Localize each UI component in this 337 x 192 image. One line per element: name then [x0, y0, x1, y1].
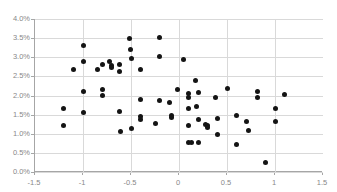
- data-point: [205, 125, 210, 130]
- data-point: [273, 119, 278, 124]
- scatter-chart: 0.0%0.5%1.0%1.5%2.0%2.5%3.0%3.5%4.0% -1.…: [0, 0, 337, 192]
- data-point: [61, 123, 66, 128]
- data-point: [117, 69, 122, 74]
- data-point: [118, 129, 123, 134]
- data-point: [193, 78, 198, 83]
- y-tick-label: 3.0%: [0, 53, 30, 61]
- data-point: [128, 47, 133, 52]
- data-point: [234, 113, 239, 118]
- data-point: [138, 97, 143, 102]
- data-point: [196, 140, 201, 145]
- data-point: [81, 110, 86, 115]
- data-point: [234, 142, 239, 147]
- data-point: [167, 100, 172, 105]
- x-tick-label: 1: [257, 178, 291, 187]
- data-point: [100, 93, 105, 98]
- x-tick-label: 1.5: [305, 178, 337, 187]
- y-tick-label: 1.5%: [0, 111, 30, 119]
- data-point: [153, 121, 158, 126]
- gridline-vertical: [275, 19, 276, 172]
- y-tick-label: 1.0%: [0, 130, 30, 138]
- data-point: [196, 90, 201, 95]
- y-tick-label: 0.0%: [0, 168, 30, 176]
- x-tick-label: -1: [65, 178, 99, 187]
- data-point: [215, 132, 220, 137]
- data-point: [138, 67, 143, 72]
- data-point: [186, 95, 191, 100]
- data-point: [100, 87, 105, 92]
- data-point: [263, 160, 268, 165]
- data-point: [81, 59, 86, 64]
- gridline-vertical: [227, 19, 228, 172]
- data-point: [127, 36, 132, 41]
- data-point: [129, 56, 134, 61]
- data-point: [282, 92, 287, 97]
- gridline-vertical: [179, 19, 180, 172]
- data-point: [81, 43, 86, 48]
- chart-title: [8, 0, 328, 3]
- gridline-vertical: [83, 19, 84, 172]
- data-point: [181, 57, 186, 62]
- gridline-horizontal: [35, 172, 323, 173]
- plot-area: [34, 19, 322, 172]
- data-point: [95, 67, 100, 72]
- data-point: [255, 95, 260, 100]
- data-point: [273, 106, 278, 111]
- x-tick-label: -1.5: [17, 178, 51, 187]
- data-point: [189, 140, 194, 145]
- data-point: [117, 62, 122, 67]
- data-point: [246, 128, 251, 133]
- data-point: [157, 98, 162, 103]
- data-point: [157, 35, 162, 40]
- data-point: [169, 115, 174, 120]
- data-point: [100, 62, 105, 67]
- data-point: [255, 89, 260, 94]
- data-point: [194, 104, 199, 109]
- y-tick-label: 3.5%: [0, 34, 30, 42]
- data-point: [225, 86, 230, 91]
- data-point: [109, 65, 114, 70]
- data-point: [213, 95, 218, 100]
- data-point: [138, 117, 143, 122]
- data-point: [129, 126, 134, 131]
- gridline-vertical: [131, 19, 132, 172]
- x-tick-label: -0.5: [113, 178, 147, 187]
- y-tick-label: 0.5%: [0, 149, 30, 157]
- y-tick-label: 2.0%: [0, 92, 30, 100]
- data-point: [175, 87, 180, 92]
- data-point: [244, 119, 249, 124]
- data-point: [71, 67, 76, 72]
- data-point: [186, 106, 191, 111]
- x-tick-label: 0: [161, 178, 195, 187]
- data-point: [61, 106, 66, 111]
- data-point: [215, 116, 220, 121]
- y-tick-label: 2.5%: [0, 72, 30, 80]
- data-point: [196, 117, 201, 122]
- x-tick-label: 0.5: [209, 178, 243, 187]
- data-point: [186, 123, 191, 128]
- data-point: [81, 89, 86, 94]
- y-tick-label: 4.0%: [0, 15, 30, 23]
